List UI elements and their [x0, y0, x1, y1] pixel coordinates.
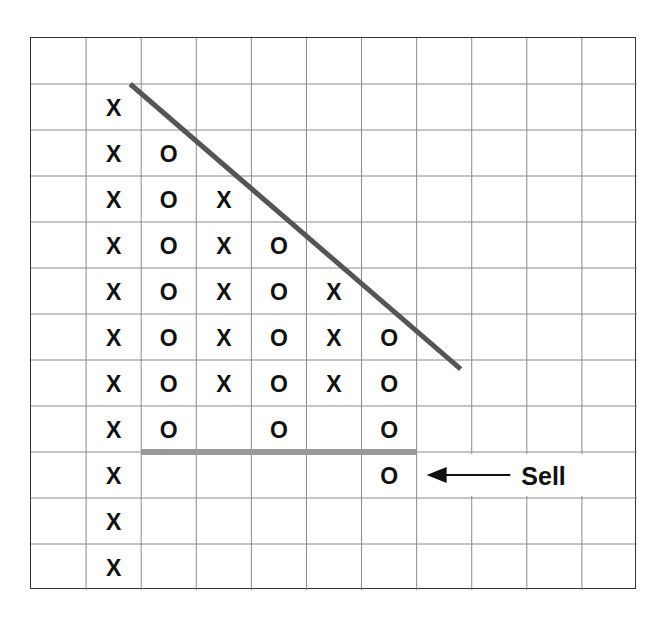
- o-mark: O: [160, 233, 178, 259]
- x-mark: X: [106, 325, 122, 351]
- point-and-figure-chart: XXXXXXXXXXXOOOOOOOXXXXXOOOOOXXXOOOOSell: [30, 37, 636, 589]
- x-mark: X: [326, 371, 342, 397]
- x-mark: X: [106, 233, 122, 259]
- x-mark: X: [216, 187, 232, 213]
- x-mark: X: [106, 95, 122, 121]
- x-mark: X: [106, 141, 122, 167]
- x-mark: X: [216, 233, 232, 259]
- x-mark: X: [106, 509, 122, 535]
- o-mark: O: [270, 325, 288, 351]
- o-mark: O: [270, 417, 288, 443]
- o-mark: O: [270, 371, 288, 397]
- x-mark: X: [216, 371, 232, 397]
- chart-canvas: XXXXXXXXXXXOOOOOOOXXXXXOOOOOXXXOOOOSell: [31, 38, 637, 590]
- x-mark: X: [106, 279, 122, 305]
- o-mark: O: [270, 279, 288, 305]
- o-mark: O: [380, 417, 398, 443]
- x-mark: X: [216, 279, 232, 305]
- o-mark: O: [380, 371, 398, 397]
- o-mark: O: [160, 417, 178, 443]
- x-mark: X: [106, 555, 122, 581]
- o-mark: O: [160, 279, 178, 305]
- x-mark: X: [326, 325, 342, 351]
- o-mark: O: [160, 141, 178, 167]
- x-mark: X: [106, 463, 122, 489]
- x-mark: X: [326, 279, 342, 305]
- o-mark: O: [160, 187, 178, 213]
- x-mark: X: [106, 417, 122, 443]
- sell-annotation-label: Sell: [521, 462, 565, 490]
- x-mark: X: [106, 187, 122, 213]
- o-mark: O: [380, 463, 398, 489]
- x-mark: X: [216, 325, 232, 351]
- o-mark: O: [380, 325, 398, 351]
- o-mark: O: [270, 233, 288, 259]
- downtrend-resistance-line: [130, 84, 461, 369]
- o-mark: O: [160, 325, 178, 351]
- x-mark: X: [106, 371, 122, 397]
- o-mark: O: [160, 371, 178, 397]
